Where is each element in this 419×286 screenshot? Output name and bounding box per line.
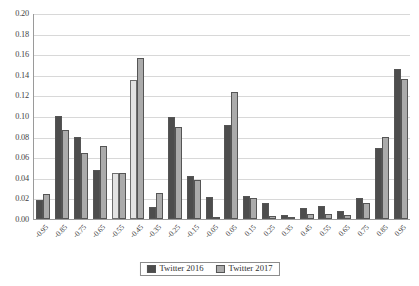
y-axis-tick-label: 0.08 [15, 134, 29, 142]
bar-chart: 0.200.180.160.140.120.100.080.060.040.02… [0, 0, 419, 286]
bar [382, 137, 389, 219]
x-axis-tick-slot: 0.25 [259, 221, 278, 257]
legend-swatch-icon [146, 265, 155, 273]
bar [156, 193, 163, 219]
bar-group [147, 14, 166, 219]
x-axis-tick-slot: -0.95 [33, 221, 52, 257]
bar-group [166, 14, 185, 219]
legend-entry: Twitter 2017 [216, 264, 273, 273]
bar [394, 69, 401, 219]
x-axis-tick-slot: -0.25 [165, 221, 184, 257]
legend-entry: Twitter 2016 [146, 264, 203, 273]
bar-group [90, 14, 109, 219]
bar-group [335, 14, 354, 219]
x-axis-tick-label: 0.65 [337, 224, 351, 238]
bar [262, 203, 269, 219]
x-axis-tick-label: -0.75 [72, 224, 88, 240]
x-axis-tick-slot: -0.05 [203, 221, 222, 257]
y-axis-tick-label: 0.04 [15, 175, 29, 183]
x-axis-tick-slot: -0.65 [90, 221, 109, 257]
bar [43, 194, 50, 219]
bar [250, 198, 257, 219]
bar-group [260, 14, 279, 219]
bar [300, 208, 307, 219]
bar [337, 211, 344, 219]
bar [224, 125, 231, 219]
bar [213, 217, 220, 219]
x-axis-tick-label: -0.55 [110, 224, 126, 240]
x-axis: -0.95-0.85-0.75-0.65-0.55-0.45-0.35-0.25… [33, 221, 410, 257]
y-axis-tick-label: 0.20 [15, 10, 29, 18]
bar [149, 207, 156, 219]
bar [137, 58, 144, 219]
y-axis-tick-label: 0.18 [15, 31, 29, 39]
x-axis-tick-slot: 0.55 [316, 221, 335, 257]
bar [194, 180, 201, 219]
x-axis-tick-label: 0.75 [356, 224, 370, 238]
x-axis-tick-slot: -0.75 [71, 221, 90, 257]
bar [363, 203, 370, 219]
x-axis-tick-slot: 0.85 [372, 221, 391, 257]
bar [269, 216, 276, 219]
y-axis-tick-label: 0.00 [15, 216, 29, 224]
chart-legend: Twitter 2016Twitter 2017 [139, 262, 279, 276]
bar [74, 137, 81, 219]
bar [318, 206, 325, 219]
bar-group [72, 14, 91, 219]
bar [344, 215, 351, 219]
bar-group [372, 14, 391, 219]
bar-group [184, 14, 203, 219]
y-axis-tick-label: 0.06 [15, 154, 29, 162]
x-axis-tick-label: 0.45 [300, 224, 314, 238]
x-axis-tick-slot: 0.45 [297, 221, 316, 257]
x-axis-tick-label: 0.85 [375, 224, 389, 238]
bar [401, 79, 408, 219]
y-axis-tick-label: 0.14 [15, 72, 29, 80]
x-axis-tick-slot: 0.65 [335, 221, 354, 257]
bar [307, 214, 314, 219]
x-axis-tick-slot: 0.95 [391, 221, 410, 257]
x-axis-tick-slot: 0.35 [278, 221, 297, 257]
bar [119, 173, 126, 219]
bar [93, 170, 100, 219]
x-axis-tick-slot: -0.35 [146, 221, 165, 257]
x-axis-tick-slot: -0.85 [52, 221, 71, 257]
x-axis-tick-label: -0.65 [91, 224, 107, 240]
bar-group [241, 14, 260, 219]
bar [187, 176, 194, 219]
bar [112, 173, 119, 219]
y-axis-tick-label: 0.02 [15, 195, 29, 203]
bar [281, 215, 288, 219]
bar [206, 197, 213, 219]
legend-swatch-icon [216, 265, 225, 273]
x-axis-tick-label: -0.15 [185, 224, 201, 240]
x-axis-tick-label: 0.95 [394, 224, 408, 238]
bar-group [316, 14, 335, 219]
x-axis-tick-slot: 0.75 [353, 221, 372, 257]
bar [243, 196, 250, 219]
x-axis-tick-label: -0.95 [34, 224, 50, 240]
y-axis-tick-label: 0.10 [15, 113, 29, 121]
y-axis: 0.200.180.160.140.120.100.080.060.040.02… [0, 0, 32, 224]
x-axis-tick-slot: -0.15 [184, 221, 203, 257]
x-axis-tick-label: -0.45 [128, 224, 144, 240]
bar [288, 217, 295, 219]
bar-group [222, 14, 241, 219]
bar-group [109, 14, 128, 219]
legend-label: Twitter 2017 [229, 264, 273, 273]
bar-group [354, 14, 373, 219]
bar [62, 130, 69, 219]
x-axis-tick-label: 0.25 [262, 224, 276, 238]
x-axis-tick-slot: -0.55 [108, 221, 127, 257]
bar [81, 153, 88, 219]
bars-layer [34, 14, 410, 219]
bar [356, 198, 363, 219]
y-axis-tick-label: 0.12 [15, 92, 29, 100]
plot-area [33, 14, 410, 220]
x-axis-tick-slot: 0.15 [240, 221, 259, 257]
bar [55, 116, 62, 219]
bar-group [34, 14, 53, 219]
bar-group [391, 14, 410, 219]
x-axis-tick-label: -0.05 [204, 224, 220, 240]
x-axis-tick-label: -0.35 [147, 224, 163, 240]
